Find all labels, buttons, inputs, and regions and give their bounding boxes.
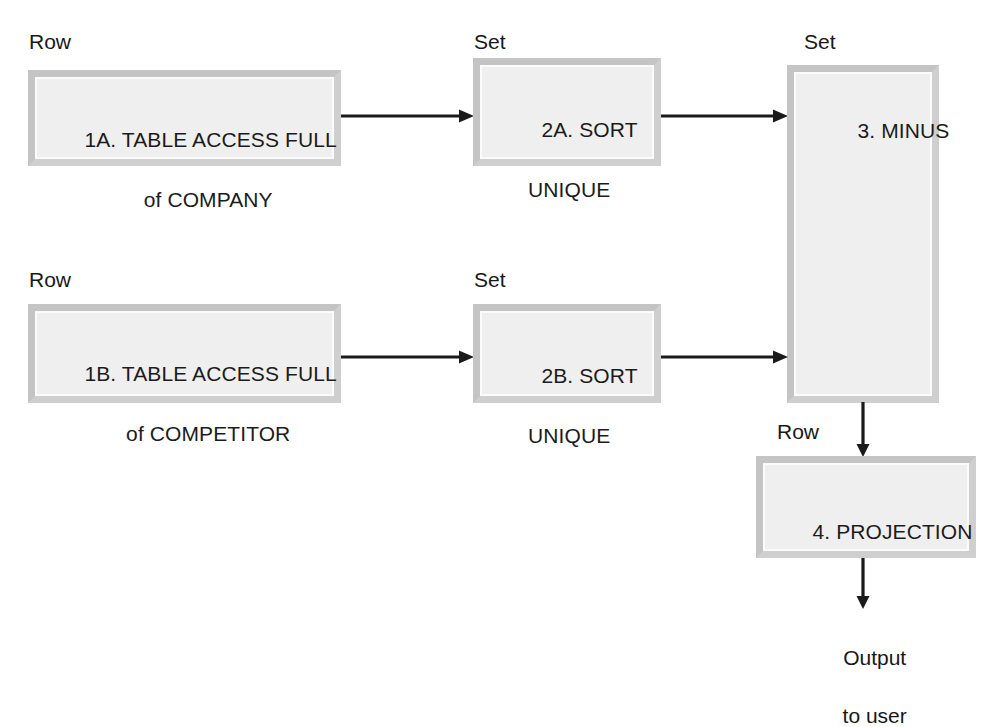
node-label-line1: 4. PROJECTION — [812, 520, 972, 543]
node-label: 2B. SORT UNIQUE — [482, 331, 652, 511]
node-label-line2: of COMPETITOR — [126, 422, 290, 445]
node-body: 2B. SORT UNIQUE — [480, 311, 654, 396]
output-line1: Output — [843, 646, 906, 669]
node-body: 2A. SORT UNIQUE — [480, 65, 654, 159]
node-label: 1B. TABLE ACCESS FULL of COMPETITOR — [37, 329, 332, 479]
edge-label-row-projection: Row — [777, 420, 819, 444]
output-terminal-text: Output to user — [793, 614, 933, 727]
node-label: 1A. TABLE ACCESS FULL of COMPANY — [37, 95, 332, 245]
connector-projection-to-output — [855, 558, 871, 610]
connector-1b-to-2b — [341, 349, 475, 365]
edge-label-set-2a: Set — [474, 30, 506, 54]
node-label-line1: 2B. SORT — [541, 364, 637, 387]
connector-1a-to-2a — [341, 108, 475, 124]
node-label-line2: UNIQUE — [494, 421, 652, 451]
node-label: 3. MINUS — [796, 86, 930, 176]
node-body: 3. MINUS — [794, 72, 932, 396]
node-label-line1: 2A. SORT — [541, 118, 637, 141]
node-sort-unique-b[interactable]: 2B. SORT UNIQUE — [473, 304, 661, 403]
node-label-line1: 1A. TABLE ACCESS FULL — [84, 128, 336, 151]
node-body: 1A. TABLE ACCESS FULL of COMPANY — [35, 77, 334, 159]
node-body: 4. PROJECTION — [763, 463, 969, 551]
node-minus[interactable]: 3. MINUS — [787, 65, 939, 403]
edge-label-row-1b: Row — [29, 268, 71, 292]
connector-2a-to-minus — [661, 108, 789, 124]
node-projection[interactable]: 4. PROJECTION — [756, 456, 976, 558]
edge-label-set-2b: Set — [474, 268, 506, 292]
node-label-line1: 1B. TABLE ACCESS FULL — [84, 362, 336, 385]
connector-2b-to-minus — [661, 349, 789, 365]
node-body: 1B. TABLE ACCESS FULL of COMPETITOR — [35, 311, 334, 396]
edge-label-set-minus: Set — [804, 30, 836, 54]
node-label-line1: 3. MINUS — [857, 119, 949, 142]
node-label-line2: of COMPANY — [144, 188, 273, 211]
node-sort-unique-a[interactable]: 2A. SORT UNIQUE — [473, 58, 661, 166]
node-table-access-full-company[interactable]: 1A. TABLE ACCESS FULL of COMPANY — [28, 70, 341, 166]
node-label: 2A. SORT UNIQUE — [482, 85, 652, 265]
node-table-access-full-competitor[interactable]: 1B. TABLE ACCESS FULL of COMPETITOR — [28, 304, 341, 403]
output-line2: to user — [843, 704, 907, 727]
node-label-line2: UNIQUE — [494, 175, 652, 205]
edge-label-row-1a: Row — [29, 30, 71, 54]
connector-minus-to-projection — [855, 402, 871, 458]
